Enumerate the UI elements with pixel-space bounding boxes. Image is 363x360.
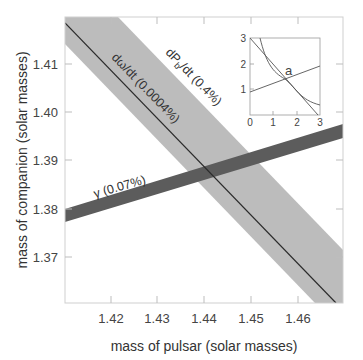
x-tick-label: 1.42: [98, 311, 123, 326]
inset-y-tick-label: 2: [240, 59, 246, 70]
inset-x-tick-label: 0: [247, 117, 253, 128]
x-tick-label: 1.45: [238, 311, 263, 326]
inset-x-tick-label: 2: [294, 117, 300, 128]
inset-x-tick-label: 3: [317, 117, 323, 128]
y-tick-label: 1.39: [33, 153, 58, 168]
inset-plot: 0 1 2 3 1 2 3 a: [240, 33, 323, 128]
inset-y-tick-label: 3: [240, 33, 246, 44]
x-tick-label: 1.44: [191, 311, 216, 326]
y-tick-label: 1.38: [33, 202, 58, 217]
mass-mass-diagram: 1.42 1.43 1.44 1.45 1.46 1.41 1.40 1.39 …: [0, 0, 363, 360]
y-tick-label: 1.41: [33, 57, 58, 72]
x-tick-labels: 1.42 1.43 1.44 1.45 1.46: [98, 311, 310, 326]
inset-y-tick-label: 1: [240, 84, 246, 95]
inset-a-label: a: [285, 63, 293, 78]
x-tick-label: 1.43: [144, 311, 169, 326]
y-tick-label: 1.40: [33, 105, 58, 120]
x-axis-title: mass of pulsar (solar masses): [111, 338, 298, 354]
y-tick-label: 1.37: [33, 250, 58, 265]
x-tick-label: 1.46: [285, 311, 310, 326]
inset-x-tick-label: 1: [270, 117, 276, 128]
y-axis-title: mass of companion (solar masses): [14, 51, 30, 268]
y-tick-labels: 1.41 1.40 1.39 1.38 1.37: [33, 57, 58, 265]
